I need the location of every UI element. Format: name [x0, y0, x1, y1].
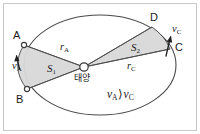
label-point-b: B [16, 94, 23, 105]
label-point-c: C [175, 42, 183, 53]
point-a-marker [21, 42, 26, 47]
label-area-s1-letter: S [47, 62, 53, 74]
label-velocity-va: vA [12, 61, 22, 72]
relation-left-subscript: A [112, 93, 117, 102]
label-area-s2-subscript: 2 [137, 47, 141, 55]
label-radius-ra: rA [60, 42, 69, 53]
label-velocity-va-subscript: A [17, 65, 22, 73]
label-velocity-vc-subscript: C [177, 28, 182, 36]
label-velocity-vc-letter: v [172, 23, 177, 34]
relation-right-subscript: C [129, 93, 134, 102]
relation-right-letter: v [124, 88, 129, 100]
label-velocity-va-letter: v [12, 60, 17, 71]
orbital-diagram-figure: A B C D 태양 S1 S2 rA rC vA vC vA⟩vC [0, 0, 200, 134]
label-area-s1: S1 [47, 63, 56, 74]
label-area-s2-letter: S [131, 41, 137, 53]
label-area-s2: S2 [131, 42, 140, 53]
label-point-d: D [150, 12, 158, 23]
point-b-marker [24, 86, 29, 91]
kepler-orbit-svg [0, 0, 200, 134]
sun-focus-marker [80, 63, 88, 71]
label-radius-ra-subscript: A [64, 46, 69, 54]
label-radius-rc-subscript: C [131, 65, 136, 73]
label-velocity-vc: vC [172, 24, 181, 35]
label-point-a: A [13, 30, 20, 41]
label-area-s1-subscript: 1 [53, 68, 57, 76]
label-radius-rc: rC [127, 61, 136, 72]
label-velocity-relation: vA⟩vC [107, 89, 134, 101]
label-sun-taeyang: 태양 [74, 74, 89, 83]
